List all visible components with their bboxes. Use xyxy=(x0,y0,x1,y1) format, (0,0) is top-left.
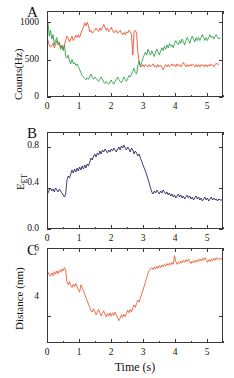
panel-a-xtick-1: 1 xyxy=(69,101,89,111)
panel-b-xtick-mark-bottom xyxy=(159,227,160,230)
panel-b-xtick-mark-top xyxy=(47,132,48,136)
panel-a-xtick-mark-top xyxy=(111,11,112,15)
panel-c-xtick-mark-bottom xyxy=(175,339,176,343)
trace-donor xyxy=(48,22,219,69)
panel-b-ytick-mark-left xyxy=(47,188,51,189)
panel-b-xtick-mark-bottom xyxy=(127,227,128,230)
panel-a-xtick-mark-top xyxy=(143,11,144,15)
panel-b-xtick-mark-top xyxy=(95,132,96,135)
panel-c-xtick-mark-bottom xyxy=(63,341,64,344)
panel-a-xtick-mark-bottom xyxy=(127,95,128,98)
panel-b-ytick-mark-right xyxy=(219,229,223,230)
panel-a-xtick-mark-top xyxy=(223,11,224,14)
panel-b-xtick-mark-top xyxy=(207,132,208,136)
panel-b-xtick-4: 4 xyxy=(165,233,185,243)
panel-a-xtick-mark-top xyxy=(127,11,128,14)
panel-b-xtick-mark-bottom xyxy=(111,225,112,229)
panel-c-xtick-mark-bottom xyxy=(111,339,112,343)
panel-c-xtick-mark-bottom xyxy=(159,341,160,344)
panel-a-xtick-mark-top xyxy=(79,11,80,15)
panel-c-xtick-mark-bottom xyxy=(127,341,128,344)
panel-c-xtick-mark-top xyxy=(207,248,208,252)
shared-x-axis-label: Time (s) xyxy=(47,360,223,375)
panel-b-xtick-mark-top xyxy=(191,132,192,135)
panel-c-xtick-mark-top xyxy=(63,248,64,251)
panel-c-xtick-mark-top xyxy=(191,248,192,251)
panel-a-ytick-mark-right xyxy=(219,60,223,61)
panel-b-xtick-mark-top xyxy=(79,132,80,136)
panel-b-xtick-mark-bottom xyxy=(191,227,192,230)
panel-c-xtick-mark-top xyxy=(95,248,96,251)
panel-a-xtick-mark-bottom xyxy=(191,95,192,98)
panel-a-xtick-mark-top xyxy=(47,11,48,15)
panel-b-xtick-mark-top xyxy=(111,132,112,136)
panel-a-xtick-mark-bottom xyxy=(79,93,80,97)
panel-a-ytick-mark-right xyxy=(219,97,223,98)
panel-a-xtick-mark-bottom xyxy=(95,95,96,98)
panel-c-xtick-1: 1 xyxy=(69,347,89,357)
panel-b-xtick-3: 3 xyxy=(133,233,153,243)
panel-a-xtick-mark-top xyxy=(95,11,96,14)
panel-b-xtick-mark-top xyxy=(127,132,128,135)
panel-a-xtick-3: 3 xyxy=(133,101,153,111)
panel-b-xtick-mark-bottom xyxy=(143,225,144,229)
panel-b-ytick-mark-left xyxy=(47,147,51,148)
panel-b-xtick-mark-top xyxy=(223,132,224,135)
panel-b-letter: B xyxy=(27,126,37,141)
panel-c-plot-area xyxy=(47,248,223,343)
panel-b-xtick-mark-bottom xyxy=(95,227,96,230)
panel-a-xtick-mark-top xyxy=(207,11,208,15)
panel-b-xtick-mark-top xyxy=(63,132,64,135)
panel-a-xtick-mark-bottom xyxy=(207,93,208,97)
panel-b-xtick-mark-bottom xyxy=(175,225,176,229)
panel-b-ytick-08: 0.8 xyxy=(0,140,39,150)
panel-a-xtick-2: 2 xyxy=(101,101,121,111)
panel-a-ytick-500: 500 xyxy=(0,54,39,64)
panel-a-xtick-mark-bottom xyxy=(63,95,64,98)
panel-b-xtick-mark-bottom xyxy=(223,227,224,230)
panel-b-xtick-1: 1 xyxy=(69,233,89,243)
panel-c-xtick-mark-top xyxy=(111,248,112,252)
panel-c-ytick-mark-right xyxy=(219,316,223,317)
panel-c-xtick-mark-top xyxy=(143,248,144,252)
panel-c-xtick-mark-bottom xyxy=(223,341,224,344)
panel-c-traces xyxy=(48,249,222,342)
panel-a-xtick-mark-bottom xyxy=(175,93,176,97)
panel-a-xtick-mark-top xyxy=(175,11,176,15)
panel-b-xtick-mark-bottom xyxy=(207,225,208,229)
panel-b-ytick-00: 0.0 xyxy=(0,223,39,233)
panel-b-xtick-mark-top xyxy=(159,132,160,135)
panel-b-xtick-mark-bottom xyxy=(79,225,80,229)
panel-a-xtick-mark-bottom xyxy=(223,95,224,98)
panel-c-xtick-mark-bottom xyxy=(207,339,208,343)
panel-c-xtick-mark-bottom xyxy=(95,341,96,344)
panel-a-xtick-mark-top xyxy=(191,11,192,14)
panel-a-xtick-mark-bottom xyxy=(111,93,112,97)
panel-b-xtick-mark-top xyxy=(175,132,176,136)
panel-c-ytick-mark-left xyxy=(47,316,51,317)
panel-c-ytick-mark-left xyxy=(47,248,51,249)
panel-c-xtick-3: 3 xyxy=(133,347,153,357)
panel-c-ytick-6: 6 xyxy=(0,243,39,253)
panel-c-xtick-mark-top xyxy=(175,248,176,252)
panel-c-ytick-mark-right xyxy=(219,248,223,249)
panel-b-ytick-mark-right xyxy=(219,147,223,148)
panel-b-xtick-5: 5 xyxy=(197,233,217,243)
panel-a-xtick-5: 5 xyxy=(197,101,217,111)
panel-c-xtick-mark-top xyxy=(127,248,128,251)
panel-a-ytick-mark-left xyxy=(47,60,51,61)
panel-c-xtick-0: 0 xyxy=(37,347,57,357)
panel-a-xtick-mark-top xyxy=(63,11,64,14)
panel-b-ytick-04: 0.4 xyxy=(0,177,39,187)
panel-c-xtick-mark-bottom xyxy=(191,341,192,344)
panel-c-xtick-2: 2 xyxy=(101,347,121,357)
panel-c-xtick-mark-bottom xyxy=(47,339,48,343)
panel-b-ytick-mark-right xyxy=(219,188,223,189)
panel-c-xtick-mark-bottom xyxy=(79,339,80,343)
panel-c-xtick-mark-top xyxy=(159,248,160,251)
panel-c-xtick-mark-top xyxy=(79,248,80,252)
panel-c-xtick-mark-bottom xyxy=(143,339,144,343)
panel-c-xtick-mark-top xyxy=(223,248,224,251)
panel-a-xtick-mark-bottom xyxy=(143,93,144,97)
panel-b-traces xyxy=(48,133,222,228)
